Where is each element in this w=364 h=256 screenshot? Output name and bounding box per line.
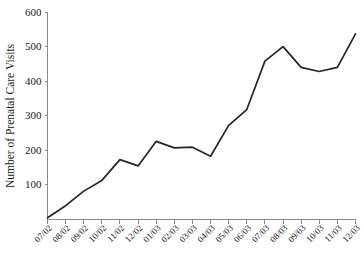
x-tick-label: 11/03: [322, 222, 344, 244]
x-axis-group: 07/0208/0209/0210/0211/0212/0201/0302/03…: [32, 220, 362, 245]
chart-page: 100200300400500600 Number of Prenatal Ca…: [0, 0, 364, 256]
y-axis-title: Number of Prenatal Care Visits: [4, 43, 16, 188]
x-tick-label: 03/03: [177, 223, 199, 245]
series-line-prenatal-visits: [48, 34, 356, 218]
x-tick-label: 01/03: [141, 223, 163, 245]
x-tick-label: 07/03: [250, 223, 272, 245]
x-tick-label: 12/02: [123, 223, 145, 245]
x-tick-label: 10/03: [304, 223, 326, 245]
data-series-group: [48, 34, 356, 218]
y-tick-label: 300: [25, 109, 42, 121]
x-tick-label: 07/02: [32, 223, 54, 245]
x-tick-label: 08/03: [268, 223, 290, 245]
y-tick-label: 400: [25, 75, 42, 87]
y-axis-group: 100200300400500600 Number of Prenatal Ca…: [4, 6, 48, 220]
x-tick-marks: [48, 220, 356, 224]
x-tick-label: 06/03: [232, 223, 254, 245]
x-tick-label: 09/03: [286, 223, 308, 245]
x-tick-labels: 07/0208/0209/0210/0211/0212/0201/0302/03…: [32, 222, 362, 244]
line-chart: 100200300400500600 Number of Prenatal Ca…: [0, 0, 364, 256]
x-tick-label: 05/03: [214, 223, 236, 245]
x-tick-label: 02/03: [159, 223, 181, 245]
x-tick-label: 04/03: [195, 223, 217, 245]
y-tick-labels: 100200300400500600: [25, 6, 42, 191]
y-tick-label: 600: [25, 6, 42, 18]
x-tick-label: 09/02: [69, 223, 91, 245]
x-tick-label: 11/02: [105, 223, 126, 244]
y-tick-label: 100: [25, 178, 42, 190]
y-tick-label: 500: [25, 40, 42, 52]
x-tick-label: 12/03: [340, 223, 362, 245]
x-tick-label: 08/02: [50, 223, 72, 245]
x-tick-label: 10/02: [87, 223, 109, 245]
y-tick-label: 200: [25, 144, 42, 156]
